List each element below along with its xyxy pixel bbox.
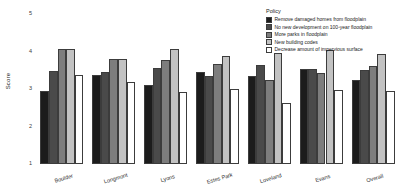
bar xyxy=(66,49,75,164)
bar xyxy=(308,69,317,164)
bar xyxy=(161,60,170,164)
bar xyxy=(274,53,283,164)
bar xyxy=(213,64,222,164)
bar xyxy=(205,76,214,165)
legend-item-label: Remove damaged homes from floodplain xyxy=(275,17,366,22)
legend-swatch-icon xyxy=(266,32,272,38)
legend-item[interactable]: No new development on 100-year floodplai… xyxy=(266,24,402,31)
bar xyxy=(352,80,361,164)
bar xyxy=(360,70,369,164)
y-tick-label: 3 xyxy=(16,86,32,92)
x-tick-label: Evans xyxy=(305,170,341,186)
legend-title: Policy xyxy=(266,9,402,15)
bar xyxy=(256,65,265,164)
bar xyxy=(127,82,136,164)
x-tick-label: Longmont xyxy=(97,170,133,186)
bar xyxy=(265,80,274,164)
legend-swatch-icon xyxy=(266,24,272,30)
legend-item[interactable]: Decrease amount of impervious surface xyxy=(266,46,402,53)
x-axis-labels: BoulderLongmontLyonsEstes ParkLovelandEv… xyxy=(36,166,399,188)
y-axis-title: Score xyxy=(5,61,11,101)
legend-swatch-icon xyxy=(266,47,272,53)
legend: Policy Remove damaged homes from floodpl… xyxy=(266,9,402,54)
legend-item-label: Decrease amount of impervious surface xyxy=(275,47,363,52)
bar xyxy=(326,50,335,164)
y-tick-label: 4 xyxy=(16,49,32,55)
bar xyxy=(386,91,395,164)
bar xyxy=(317,73,326,164)
bar xyxy=(170,49,179,164)
bar-group xyxy=(192,14,244,164)
bar xyxy=(377,54,386,164)
bar xyxy=(109,59,118,164)
legend-item[interactable]: More parks in floodplain xyxy=(266,31,402,38)
bar xyxy=(58,49,67,164)
x-tick-label: Estes Park xyxy=(201,170,237,186)
x-tick-label: Lyons xyxy=(149,170,185,186)
y-tick-label: 1 xyxy=(16,161,32,167)
legend-item-label: No new development on 100-year floodplai… xyxy=(275,25,373,30)
bar xyxy=(144,85,153,164)
bar xyxy=(179,92,188,164)
bar xyxy=(92,75,101,164)
bar xyxy=(369,66,378,164)
y-axis-ticks: 12345 xyxy=(14,0,32,188)
bar xyxy=(334,90,343,164)
legend-item-label: More parks in floodplain xyxy=(275,32,328,37)
legend-item-label: New building codes xyxy=(275,40,318,45)
y-tick-label: 2 xyxy=(16,124,32,130)
legend-item[interactable]: New building codes xyxy=(266,39,402,46)
bar xyxy=(101,72,110,164)
legend-item[interactable]: Remove damaged homes from floodplain xyxy=(266,16,402,23)
bar-group xyxy=(88,14,140,164)
x-tick-label: Boulder xyxy=(45,170,81,186)
bar-group xyxy=(36,14,88,164)
bar xyxy=(118,59,127,164)
bar xyxy=(230,89,239,164)
bar xyxy=(49,71,58,164)
legend-swatch-icon xyxy=(266,17,272,23)
bar xyxy=(248,76,257,164)
bar xyxy=(282,103,291,164)
legend-swatch-icon xyxy=(266,39,272,45)
bar xyxy=(222,56,231,164)
x-tick-label: Loveland xyxy=(253,170,289,186)
x-tick-label: Overall xyxy=(357,170,393,186)
bar xyxy=(40,91,49,164)
bar xyxy=(196,72,205,164)
legend-items: Remove damaged homes from floodplainNo n… xyxy=(266,16,402,53)
bar xyxy=(300,69,309,164)
bar-group xyxy=(140,14,192,164)
bar xyxy=(75,75,84,164)
y-tick-label: 5 xyxy=(16,11,32,17)
bar xyxy=(153,68,162,164)
bar-chart: Score 12345 BoulderLongmontLyonsEstes Pa… xyxy=(0,0,403,188)
